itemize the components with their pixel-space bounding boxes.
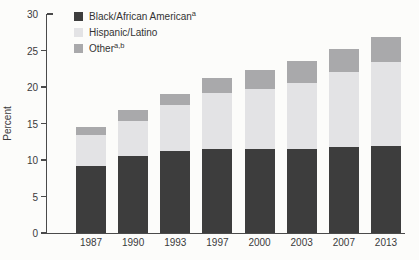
chart-legend: Black/African Americana Hispanic/Latino … xyxy=(74,11,196,54)
y-axis-tick-label: 25 xyxy=(27,45,38,56)
segment-other xyxy=(287,61,317,82)
bar-1993 xyxy=(160,94,190,233)
x-axis-tick-label: 2007 xyxy=(322,237,366,248)
segment-black-african-american xyxy=(160,151,190,233)
legend-label: Othera,b xyxy=(89,43,124,54)
bar-1990 xyxy=(118,110,148,233)
x-axis-tick-label: 1990 xyxy=(111,237,155,248)
segment-other xyxy=(245,70,275,90)
x-axis-tick-label: 2013 xyxy=(364,237,408,248)
bar-1997 xyxy=(202,78,232,233)
x-axis-tick-label: 1997 xyxy=(195,237,239,248)
y-axis-tick-label: 20 xyxy=(27,82,38,93)
segment-hispanic-latino xyxy=(245,89,275,149)
bar-2003 xyxy=(287,61,317,233)
bar-2007 xyxy=(329,49,359,233)
legend-item-black-african-american: Black/African Americana xyxy=(74,11,196,22)
bar-2013 xyxy=(371,37,401,233)
segment-black-african-american xyxy=(118,156,148,233)
x-axis-tick-label: 2000 xyxy=(238,237,282,248)
segment-black-african-american xyxy=(76,166,106,233)
stacked-bar-chart-figure: Percent 05101520253019871990199319972000… xyxy=(0,0,419,260)
y-axis-tick-label: 10 xyxy=(27,155,38,166)
y-axis-tick-label: 15 xyxy=(27,118,38,129)
segment-hispanic-latino xyxy=(202,93,232,149)
segment-black-african-american xyxy=(202,149,232,233)
bar-1987 xyxy=(76,127,106,233)
segment-black-african-american xyxy=(287,149,317,233)
legend-swatch-icon xyxy=(74,12,83,21)
x-axis-tick-label: 1993 xyxy=(153,237,197,248)
segment-hispanic-latino xyxy=(287,83,317,149)
y-axis-tick xyxy=(41,232,46,234)
x-axis-tick-label: 2003 xyxy=(280,237,324,248)
segment-other xyxy=(202,78,232,93)
segment-other xyxy=(371,37,401,63)
y-axis-tick xyxy=(47,13,53,15)
segment-hispanic-latino xyxy=(329,72,359,146)
legend-label: Hispanic/Latino xyxy=(89,27,157,38)
y-axis-tick xyxy=(41,86,46,88)
legend-swatch-icon xyxy=(74,44,83,53)
y-axis-tick xyxy=(41,123,46,125)
legend-item-other: Othera,b xyxy=(74,43,196,54)
y-axis-tick xyxy=(41,159,46,161)
segment-other xyxy=(118,110,148,120)
x-axis-tick-label: 1987 xyxy=(69,237,113,248)
legend-swatch-icon xyxy=(74,28,83,37)
segment-other xyxy=(160,94,190,106)
segment-hispanic-latino xyxy=(371,62,401,146)
segment-black-african-american xyxy=(329,147,359,233)
legend-label: Black/African Americana xyxy=(89,11,196,22)
segment-black-african-american xyxy=(371,146,401,233)
bar-2000 xyxy=(245,70,275,234)
y-axis-tick xyxy=(41,196,46,198)
y-axis-tick-label: 5 xyxy=(32,191,38,202)
segment-hispanic-latino xyxy=(160,105,190,151)
legend-item-hispanic-latino: Hispanic/Latino xyxy=(74,27,196,38)
y-axis-title: Percent xyxy=(2,94,13,154)
segment-black-african-american xyxy=(245,149,275,233)
y-axis-tick xyxy=(41,50,46,52)
segment-hispanic-latino xyxy=(118,121,148,157)
segment-other xyxy=(76,127,106,135)
y-axis-tick-label: 0 xyxy=(32,228,38,239)
segment-hispanic-latino xyxy=(76,135,106,166)
y-axis-tick-label: 30 xyxy=(27,9,38,20)
segment-other xyxy=(329,49,359,72)
